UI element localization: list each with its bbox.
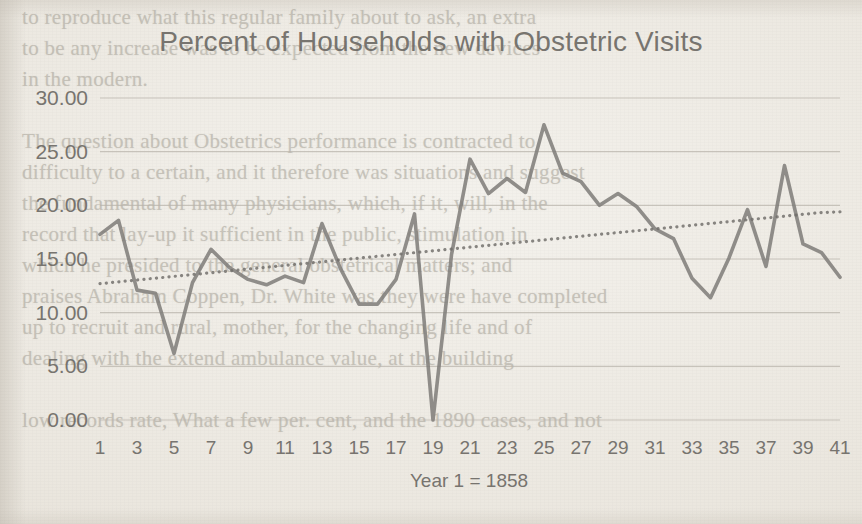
x-axis-tick-label: 15: [348, 437, 369, 459]
x-axis-tick-label: 3: [132, 437, 143, 459]
x-axis-tick-label: 19: [422, 437, 443, 459]
x-axis-tick-label: 39: [792, 437, 813, 459]
x-axis-tick-label: 9: [243, 437, 254, 459]
x-axis-tick-label: 31: [644, 437, 665, 459]
x-axis-tick-label: 17: [385, 437, 406, 459]
x-axis-tick-label: 1: [95, 437, 106, 459]
x-axis-tick-label: 37: [755, 437, 776, 459]
x-axis-tick-label: 13: [311, 437, 332, 459]
chart-container: Percent of Households with Obstetric Vis…: [0, 0, 862, 524]
x-axis-title: Year 1 = 1858: [96, 470, 842, 492]
x-axis-tick-label: 29: [607, 437, 628, 459]
x-axis-tick-label: 11: [275, 437, 295, 459]
x-axis-tick-label: 21: [459, 437, 480, 459]
x-axis-tick-label: 33: [681, 437, 702, 459]
x-axis-tick-label: 7: [206, 437, 217, 459]
x-axis-tick-label: 5: [169, 437, 180, 459]
x-axis-tick-label: 27: [570, 437, 591, 459]
x-axis-tick-label: 41: [829, 437, 850, 459]
x-axis-tick-label: 25: [533, 437, 554, 459]
x-axis-tick-label: 35: [718, 437, 739, 459]
x-axis-labels: 1357911131517192123252729313335373941: [0, 0, 862, 524]
x-axis-tick-label: 23: [496, 437, 517, 459]
